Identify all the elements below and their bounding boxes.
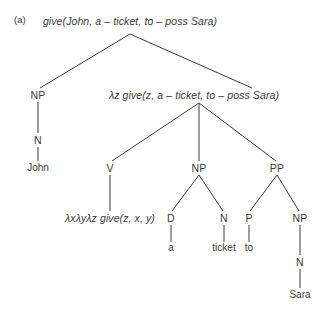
tree-node-john: John [27,163,49,173]
tree-node-n-goal: N [296,257,304,268]
tree-node-to: to [245,243,253,253]
tree-edge [199,103,276,161]
tree-node-np-goal: NP [293,213,308,224]
tree-edge [199,175,223,211]
tree-node-ticket: ticket [212,243,235,253]
tree-edge [40,34,130,88]
tree-node-n-obj: N [220,213,228,224]
tree-node-p: P [245,213,252,224]
tree-edges [0,0,326,314]
tree-node-v: V [106,163,113,174]
tree-node-root: give(John, a – ticket, to – poss Sara) [43,16,217,27]
tree-edge [250,175,277,211]
tree-node-sara: Sara [289,290,310,300]
tree-node-pp: PP [270,163,284,174]
tree-node-vp-sem: λz give(z, a – ticket, to – poss Sara) [109,90,279,101]
tree-node-n-subj: N [34,135,42,146]
tree-edge [130,34,252,88]
tree-node-np-obj: NP [192,163,207,174]
tree-node-np-subj: NP [31,90,46,101]
panel-label: (a) [14,14,26,25]
tree-edge [112,103,199,161]
tree-edge [172,175,199,211]
tree-edge [277,175,299,211]
tree-node-d: D [167,213,175,224]
figure-canvas: (a) give(John, a – ticket, to – poss Sar… [0,0,326,314]
tree-node-a: a [168,243,174,253]
tree-node-v-sem: λxλyλz give(z, x, y) [65,213,155,224]
